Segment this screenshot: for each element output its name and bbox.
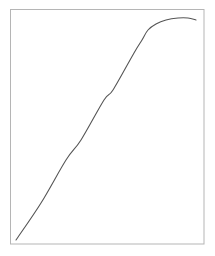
plot-frame <box>11 10 205 245</box>
line-chart <box>0 0 215 256</box>
data-curve <box>16 18 196 240</box>
